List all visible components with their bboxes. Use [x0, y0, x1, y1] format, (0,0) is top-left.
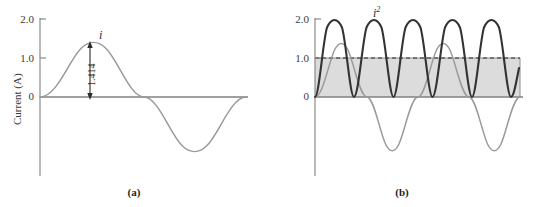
y-axis-title: Current (A) [12, 73, 23, 125]
y-tick-label-1: 1.0 [8, 53, 34, 64]
panel-a: 2.0 1.0 0 Current (A) i 1.414 (a) [0, 0, 268, 207]
y-tick-label-2: 2.0 [283, 14, 309, 25]
panel-caption-a: (a) [0, 187, 268, 198]
panel-a-plot [0, 0, 268, 207]
average-power-band [315, 58, 520, 97]
amplitude-value-label: 1.414 [87, 64, 97, 87]
panel-b: 2.0 1.0 0 i2 (b) [268, 0, 536, 207]
y-tick-label-2: 2.0 [8, 14, 34, 25]
y-tick-label-0: 0 [283, 91, 309, 102]
y-tick-label-1: 1.0 [283, 53, 309, 64]
panel-b-plot [268, 0, 536, 207]
curve-label-exponent: 2 [376, 5, 380, 14]
panel-caption-b: (b) [268, 187, 536, 198]
figure-root: 2.0 1.0 0 Current (A) i 1.414 (a) [0, 0, 536, 207]
curve-label-current: i [99, 29, 102, 41]
curve-label-current-squared: i2 [373, 6, 380, 19]
